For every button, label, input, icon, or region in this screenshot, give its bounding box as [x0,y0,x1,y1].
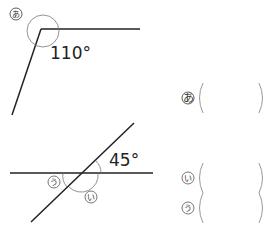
angle-label-110: 110° [50,43,91,63]
right-paren [259,163,263,193]
marker-u: う [50,178,58,187]
figure-1: あ 110° [10,8,140,115]
answer-row-a[interactable]: あ [182,83,263,113]
marker-i: い [87,193,95,202]
worksheet: あ 110° 45° う い あ い う [0,0,267,229]
left-paren [200,83,204,113]
marker-a: あ [12,10,20,19]
angle-arc-45 [96,161,101,173]
angle-label-45: 45° [109,150,139,170]
answer-marker-i: い [184,174,192,183]
ray-slanted [12,29,41,115]
angle-arc-i [69,173,98,192]
right-paren [259,83,263,113]
answer-marker-a: あ [183,92,194,105]
figure-2: 45° う い [10,123,153,222]
answer-row-i[interactable]: い [182,163,263,193]
left-paren [200,163,204,193]
angle-arc-u [63,173,67,187]
right-paren [259,193,263,223]
left-paren [200,193,204,223]
answer-marker-u: う [184,204,192,213]
answer-row-u[interactable]: う [182,193,263,223]
